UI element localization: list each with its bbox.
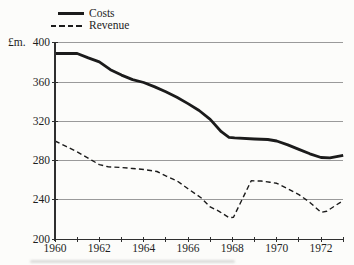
revenue-line-swatch bbox=[51, 25, 84, 27]
costs-line-swatch bbox=[58, 12, 84, 15]
scan-artifact bbox=[30, 260, 235, 263]
legend-label-costs: Costs bbox=[89, 8, 115, 19]
legend-label-revenue: Revenue bbox=[89, 20, 129, 31]
legend-item-revenue: Revenue bbox=[51, 20, 129, 31]
revenue-line bbox=[55, 141, 343, 218]
plot-svg bbox=[0, 0, 354, 265]
chart-figure: Costs Revenue £m. 400360320280240200 196… bbox=[0, 0, 354, 265]
y-axis-unit-label: £m. bbox=[8, 36, 26, 49]
legend-item-costs: Costs bbox=[51, 8, 129, 19]
costs-line bbox=[55, 54, 343, 158]
legend: Costs Revenue bbox=[51, 8, 129, 32]
